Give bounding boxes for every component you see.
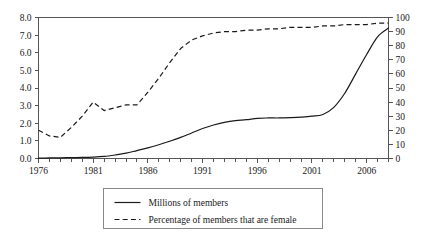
y-right-tick-label: 80	[396, 41, 406, 51]
y-right-tick-label: 50	[396, 83, 406, 93]
x-tick-label: 1981	[84, 166, 103, 176]
legend-label: Millions of members	[149, 198, 229, 208]
y-right-tick-label: 10	[396, 140, 406, 150]
y-axis-left-labels: 0.01.02.03.04.05.06.07.08.0	[20, 13, 32, 164]
y-left-tick-label: 0.0	[20, 154, 32, 164]
y-right-tick-label: 40	[396, 98, 406, 108]
y-right-tick-label: 60	[396, 69, 406, 79]
line-chart: 1976198119861991199620012006 0.01.02.03.…	[0, 0, 425, 250]
y-left-tick-label: 2.0	[20, 119, 32, 129]
y-right-tick-label: 30	[396, 112, 406, 122]
x-tick-label: 2006	[357, 166, 376, 176]
y-right-tick-label: 0	[396, 154, 401, 164]
y-right-tick-label: 90	[396, 27, 406, 37]
legend-label: Percentage of members that are female	[149, 215, 297, 225]
chart-legend: Millions of membersPercentage of members…	[104, 189, 323, 229]
y-right-tick-label: 20	[396, 126, 406, 136]
x-tick-label: 1991	[193, 166, 212, 176]
y-left-tick-label: 3.0	[20, 101, 32, 111]
y-left-tick-label: 8.0	[20, 13, 32, 23]
x-tick-label: 1996	[248, 166, 267, 176]
x-tick-label: 1986	[138, 166, 157, 176]
y-right-tick-label: 100	[396, 13, 411, 23]
y-left-tick-label: 5.0	[20, 66, 32, 76]
chart-figure: 1976198119861991199620012006 0.01.02.03.…	[0, 0, 425, 250]
y-left-tick-label: 4.0	[20, 83, 32, 93]
x-tick-label: 1976	[29, 166, 48, 176]
y-left-tick-label: 1.0	[20, 136, 32, 146]
y-left-tick-label: 6.0	[20, 48, 32, 58]
y-left-tick-label: 7.0	[20, 31, 32, 41]
x-tick-label: 2001	[302, 166, 321, 176]
y-right-tick-label: 70	[396, 55, 406, 65]
